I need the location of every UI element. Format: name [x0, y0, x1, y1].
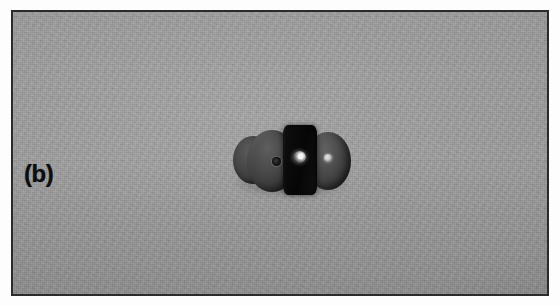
specimen-center-highlight-dot	[298, 154, 303, 159]
figure-photo-frame: (b)	[11, 10, 549, 296]
specimen-assembly	[227, 120, 353, 200]
specimen-right-highlight	[324, 154, 332, 162]
panel-label: (b)	[24, 162, 53, 186]
screenshot-root: (b)	[0, 0, 560, 306]
specimen-left-hole	[272, 157, 281, 166]
